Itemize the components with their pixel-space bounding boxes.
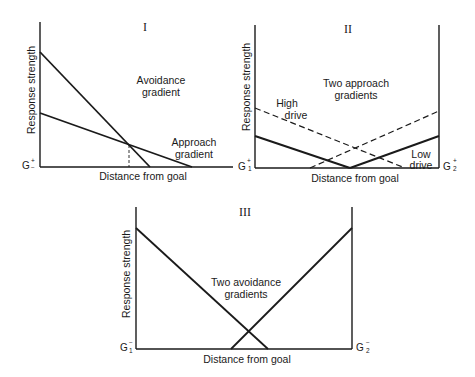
svg-text:G: G [443, 161, 451, 172]
two-approach-label-2: gradients [334, 89, 377, 101]
svg-text:G: G [238, 161, 246, 172]
svg-text:2: 2 [453, 165, 457, 172]
avoidance-gradient-line [40, 52, 150, 167]
high-drive-label: High [276, 97, 298, 109]
goal-label-left: G + − [22, 157, 35, 171]
x-axis-label: Distance from goal [311, 172, 399, 184]
y-axis-label: Response strength [25, 46, 37, 134]
panel-i: I Response strength Distance from goal A… [22, 20, 233, 182]
svg-text:G: G [22, 160, 30, 171]
svg-text:G: G [356, 342, 364, 353]
panel-iii: III Response strength Distance from goal… [120, 205, 370, 365]
svg-text:2: 2 [366, 347, 370, 354]
x-axis-label: Distance from goal [203, 353, 291, 365]
approach-label-2: gradient [175, 148, 213, 160]
svg-text:+: + [453, 157, 457, 164]
svg-text:−: − [31, 164, 35, 171]
two-avoidance-label-2: gradients [224, 288, 267, 300]
two-approach-label: Two approach [323, 77, 389, 89]
svg-text:+: + [31, 157, 35, 164]
two-avoidance-label: Two avoidance [211, 276, 281, 288]
panel-title: III [239, 205, 251, 219]
avoidance-label: Avoidance [137, 74, 186, 86]
approach-gradient-line [40, 113, 192, 167]
y-axis-label: Response strength [240, 43, 252, 131]
high-drive-label-2: drive [285, 109, 308, 121]
panel-title: I [143, 20, 147, 34]
goal-label-right: G − 2 [356, 339, 370, 354]
y-axis-label: Response strength [120, 230, 132, 318]
avoidance-label-2: gradient [142, 86, 180, 98]
x-axis-label: Distance from goal [99, 170, 187, 182]
svg-text:G: G [120, 342, 128, 353]
panel-title: II [344, 22, 352, 36]
svg-text:−: − [366, 339, 370, 346]
panel-ii: II Response strength Distance from goal … [238, 22, 457, 184]
approach-label: Approach [172, 136, 217, 148]
svg-text:−: − [129, 339, 133, 346]
goal-label-left: G + 1 [238, 157, 252, 172]
svg-text:+: + [247, 157, 251, 164]
goal-label-left: G − 1 [120, 339, 133, 354]
conflict-gradient-diagrams: I Response strength Distance from goal A… [0, 0, 475, 377]
svg-text:1: 1 [248, 165, 252, 172]
svg-text:1: 1 [129, 347, 133, 354]
low-drive-label-2: drive [410, 159, 433, 171]
goal-label-right: G + 2 [443, 157, 457, 172]
